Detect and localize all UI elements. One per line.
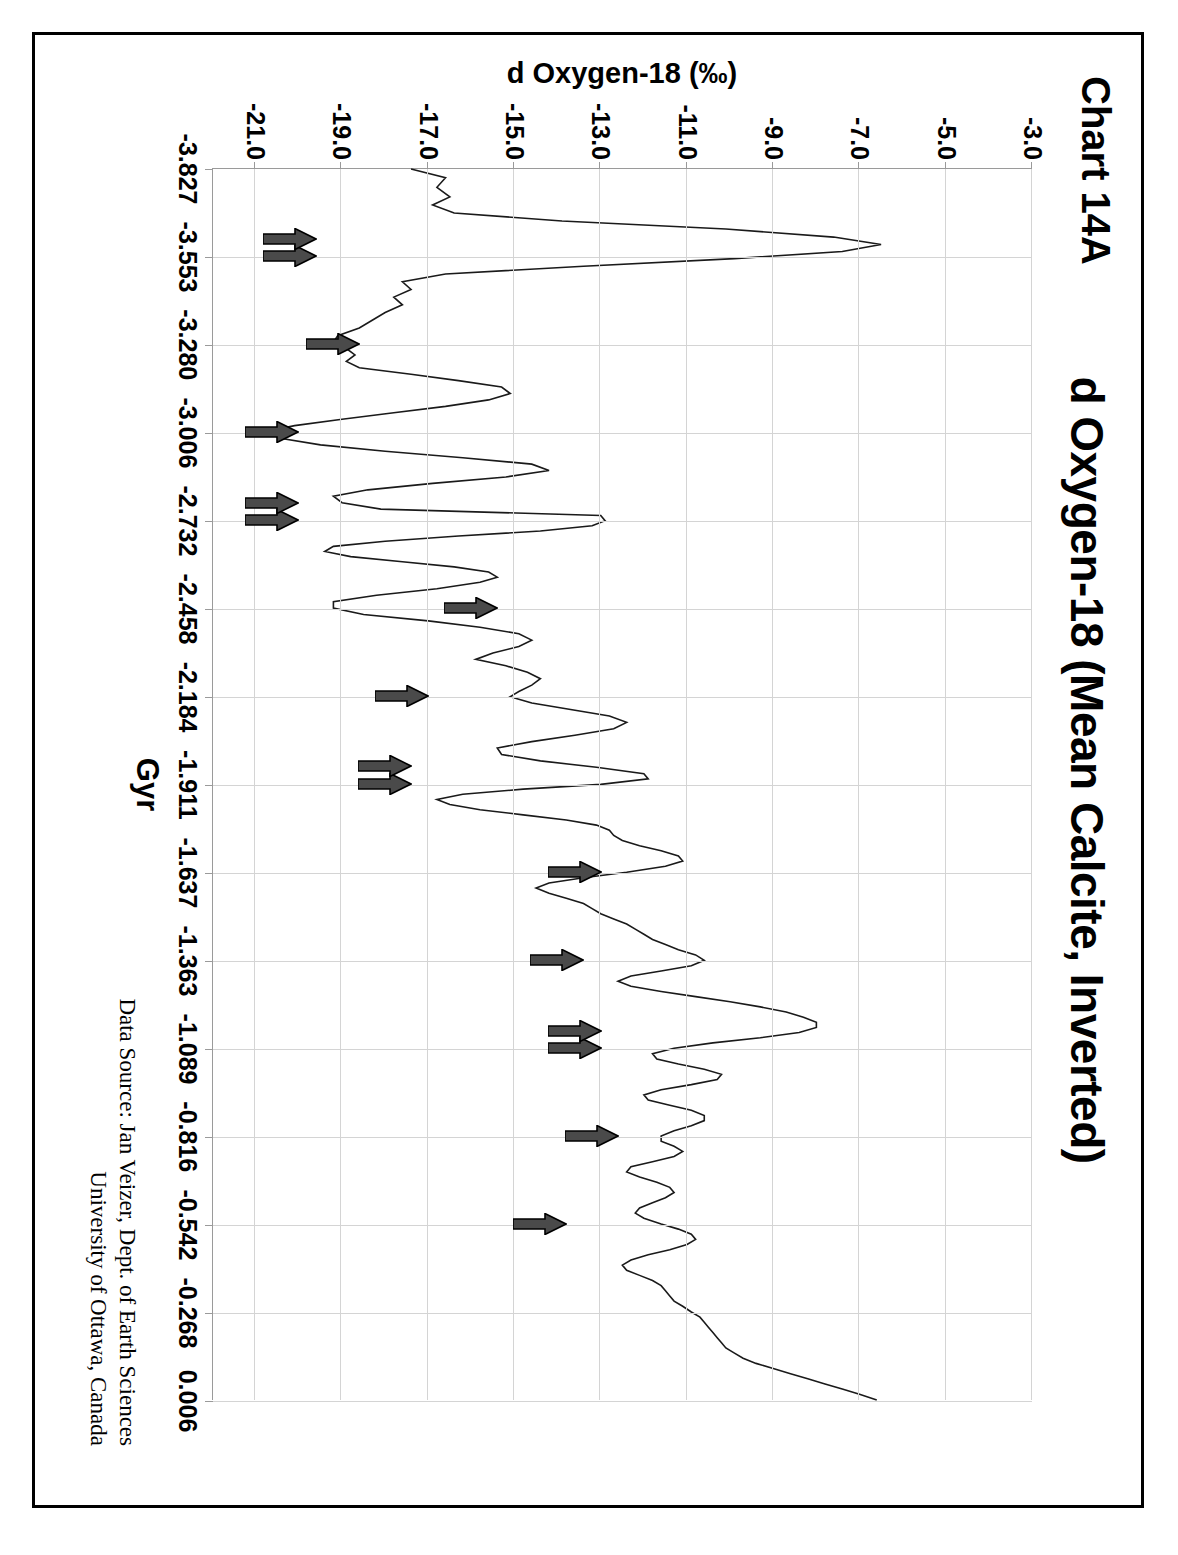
gridline-vertical bbox=[213, 873, 1032, 874]
arrow-marker-2 bbox=[263, 228, 317, 250]
y-axis-tick-label: -7.0 bbox=[845, 117, 874, 160]
right-arrow-icon bbox=[306, 333, 360, 355]
gridline-vertical bbox=[213, 257, 1032, 258]
right-arrow-icon bbox=[245, 421, 299, 443]
data-source-line-2: University of Ottawa, Canada bbox=[83, 998, 112, 1446]
x-axis-tick-label: -2.732 bbox=[173, 486, 202, 557]
x-axis-tick-mark bbox=[205, 961, 213, 962]
arrow-marker-7 bbox=[444, 597, 498, 619]
right-arrow-icon bbox=[513, 1213, 567, 1235]
x-axis-tick-label: -0.542 bbox=[173, 1189, 202, 1260]
x-axis-tick-label: -2.458 bbox=[173, 574, 202, 645]
x-axis-tick-label: -3.827 bbox=[173, 134, 202, 205]
y-axis-tick-mark bbox=[599, 162, 600, 169]
x-axis-tick-mark bbox=[205, 785, 213, 786]
gridline-vertical bbox=[213, 785, 1032, 786]
y-axis-tick-label: -5.0 bbox=[931, 117, 960, 160]
right-arrow-icon bbox=[548, 861, 602, 883]
x-axis-title: Gyr bbox=[129, 758, 165, 811]
y-axis-tick-mark bbox=[858, 162, 859, 169]
gridline-vertical bbox=[213, 1401, 1032, 1402]
gridline-vertical bbox=[213, 609, 1032, 610]
x-axis-tick-label: -1.089 bbox=[173, 1014, 202, 1085]
x-axis-tick-mark bbox=[205, 1401, 213, 1402]
x-axis-tick-label: -1.363 bbox=[173, 926, 202, 997]
right-arrow-icon bbox=[548, 1020, 602, 1042]
arrow-marker-15 bbox=[565, 1125, 619, 1147]
x-axis-tick-label: 0.006 bbox=[173, 1370, 202, 1433]
arrow-marker-12 bbox=[530, 949, 584, 971]
gridline-vertical bbox=[213, 433, 1032, 434]
x-axis-tick-label: -3.553 bbox=[173, 222, 202, 293]
arrow-marker-8 bbox=[375, 685, 429, 707]
y-axis-tick-label: -9.0 bbox=[759, 117, 788, 160]
y-axis-tick-mark bbox=[945, 162, 946, 169]
gridline-vertical bbox=[213, 697, 1032, 698]
x-axis-tick-label: -1.637 bbox=[173, 837, 202, 908]
right-arrow-icon bbox=[263, 228, 317, 250]
y-axis-tick-label: -17.0 bbox=[413, 103, 442, 160]
y-axis-title: d Oxygen-18 (‰) bbox=[507, 57, 737, 90]
chart-canvas: Chart 14A d Oxygen-18 (Mean Calcite, Inv… bbox=[48, 50, 1128, 1490]
x-axis-tick-mark bbox=[205, 873, 213, 874]
y-axis-tick-mark bbox=[427, 162, 428, 169]
y-axis-tick-label: -13.0 bbox=[586, 103, 615, 160]
chart-page-frame: Chart 14A d Oxygen-18 (Mean Calcite, Inv… bbox=[32, 32, 1144, 1508]
arrow-marker-6 bbox=[245, 492, 299, 514]
y-axis-tick-mark bbox=[340, 162, 341, 169]
data-source-credit: Data Source: Jan Veizer, Dept. of Earth … bbox=[83, 998, 142, 1446]
x-axis-tick-mark bbox=[205, 1049, 213, 1050]
x-axis-tick-label: -0.268 bbox=[173, 1277, 202, 1348]
x-axis-tick-mark bbox=[205, 1313, 213, 1314]
right-arrow-icon bbox=[245, 492, 299, 514]
arrow-marker-14 bbox=[548, 1020, 602, 1042]
right-arrow-icon bbox=[358, 755, 412, 777]
arrow-marker-3 bbox=[306, 333, 360, 355]
right-arrow-icon bbox=[375, 685, 429, 707]
rotated-chart-container: Chart 14A d Oxygen-18 (Mean Calcite, Inv… bbox=[48, 50, 1128, 1490]
y-axis-tick-label: -3.0 bbox=[1018, 117, 1047, 160]
chart-title: d Oxygen-18 (Mean Calcite, Inverted) bbox=[1060, 50, 1114, 1490]
x-axis-tick-mark bbox=[205, 345, 213, 346]
gridline-vertical bbox=[213, 1049, 1032, 1050]
gridline-vertical bbox=[213, 1137, 1032, 1138]
x-axis-tick-label: -1.911 bbox=[173, 750, 202, 820]
x-axis-tick-label: -2.184 bbox=[173, 662, 202, 733]
data-source-line-1: Data Source: Jan Veizer, Dept. of Earth … bbox=[113, 998, 142, 1446]
x-axis-tick-mark bbox=[205, 257, 213, 258]
gridline-vertical bbox=[213, 1225, 1032, 1226]
y-axis-tick-mark bbox=[1031, 162, 1032, 169]
gridline-vertical bbox=[213, 961, 1032, 962]
x-axis-tick-mark bbox=[205, 1225, 213, 1226]
x-axis-tick-mark bbox=[205, 521, 213, 522]
x-axis-tick-mark bbox=[205, 169, 213, 170]
x-axis-tick-label: -3.280 bbox=[173, 309, 202, 380]
x-axis-tick-label: -3.006 bbox=[173, 397, 202, 468]
y-axis-tick-mark bbox=[513, 162, 514, 169]
y-axis-tick-label: -19.0 bbox=[327, 103, 356, 160]
arrow-marker-10 bbox=[358, 755, 412, 777]
y-axis-tick-label: -11.0 bbox=[672, 104, 701, 160]
arrow-marker-16 bbox=[513, 1213, 567, 1235]
x-axis-tick-label: -0.816 bbox=[173, 1101, 202, 1172]
right-arrow-icon bbox=[530, 949, 584, 971]
arrow-marker-4 bbox=[245, 421, 299, 443]
x-axis-tick-mark bbox=[205, 433, 213, 434]
right-arrow-icon bbox=[565, 1125, 619, 1147]
right-arrow-icon bbox=[444, 597, 498, 619]
gridline-vertical bbox=[213, 1313, 1032, 1314]
y-axis-tick-label: -15.0 bbox=[500, 103, 529, 160]
y-axis-tick-label: -21.0 bbox=[241, 103, 270, 160]
y-axis-tick-mark bbox=[254, 162, 255, 169]
x-axis-tick-mark bbox=[205, 1137, 213, 1138]
x-axis-tick-mark bbox=[205, 609, 213, 610]
x-axis-tick-mark bbox=[205, 697, 213, 698]
y-axis-tick-mark bbox=[772, 162, 773, 169]
arrow-marker-11 bbox=[548, 861, 602, 883]
y-axis-tick-mark bbox=[686, 162, 687, 169]
gridline-vertical bbox=[213, 521, 1032, 522]
